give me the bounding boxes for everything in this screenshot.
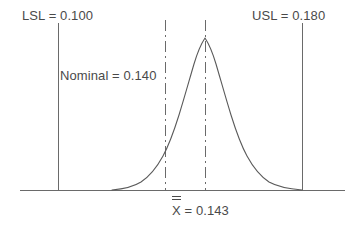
- mean-symbol-glyph: X: [172, 203, 181, 218]
- nominal-label: Nominal = 0.140: [60, 68, 157, 83]
- mean-value-text: = 0.143: [181, 203, 229, 218]
- bell-curve: [112, 38, 302, 190]
- overbar-lower: [172, 199, 182, 200]
- mean-label: X = 0.143: [172, 203, 229, 218]
- lsl-label: LSL = 0.100: [22, 8, 93, 23]
- x-double-bar-symbol: X: [172, 203, 181, 218]
- usl-label: USL = 0.180: [252, 8, 325, 23]
- overbar-upper: [172, 196, 182, 197]
- distribution-plot: [0, 0, 361, 236]
- process-capability-figure: LSL = 0.100 USL = 0.180 Nominal = 0.140 …: [0, 0, 361, 236]
